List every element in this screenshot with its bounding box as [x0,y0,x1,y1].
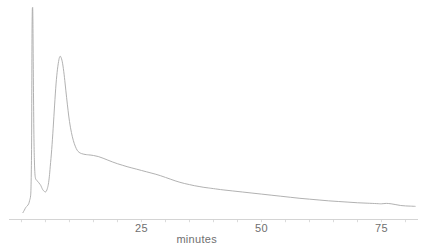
chromatogram-figure: 25 50 75 minutes [0,0,429,252]
x-tick-label-50: 50 [255,222,268,234]
x-axis-title: minutes [176,233,217,245]
x-tick-label-25: 25 [135,222,148,234]
signal-trace [23,7,415,212]
x-tick-label-75: 75 [375,222,388,234]
x-axis-ticks [21,220,405,223]
chromatogram-plot [0,0,429,252]
